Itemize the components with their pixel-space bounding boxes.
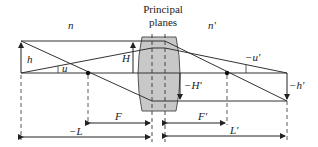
image-angle-label: −u': [245, 52, 260, 63]
image-index-label: n': [208, 20, 216, 31]
back-focal-point: [225, 71, 229, 75]
front-focal-point: [86, 71, 90, 75]
principal-height-label: H: [122, 53, 130, 64]
image-distance-label: L': [230, 125, 238, 136]
back-focal-label: F': [198, 111, 207, 122]
front-focal-label: F: [115, 111, 122, 122]
object-angle-label: u: [62, 63, 68, 74]
object-height-label: h: [27, 54, 33, 65]
title-line1: Principal: [133, 3, 193, 16]
image-principal-height-label: −H': [184, 80, 202, 91]
image-height-label: −h': [289, 80, 304, 91]
object-distance-label: −L: [69, 126, 83, 137]
object-index-label: n: [68, 20, 74, 31]
principal-planes-title: Principal planes: [133, 3, 193, 29]
title-line2: planes: [133, 16, 193, 29]
